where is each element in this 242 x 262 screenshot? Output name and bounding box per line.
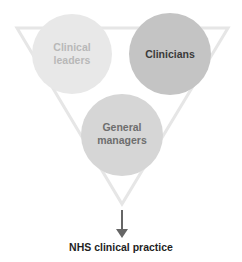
label-line: Clinicians: [129, 48, 211, 61]
down-arrow-icon: [116, 210, 128, 238]
label-line: leaders: [32, 54, 112, 67]
label-line: managers: [81, 134, 163, 147]
outcome-label: NHS clinical practice: [0, 241, 242, 253]
label-line: General: [81, 121, 163, 134]
label-line: Clinical: [32, 41, 112, 54]
label-general-managers: General managers: [81, 121, 163, 146]
label-clinicians: Clinicians: [129, 48, 211, 61]
label-clinical-leaders: Clinical leaders: [32, 41, 112, 66]
